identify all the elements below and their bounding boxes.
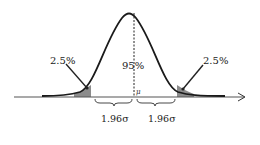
left-interval-label: 1.96σ	[101, 113, 129, 124]
left-tail-label: 2.5%	[50, 55, 75, 66]
left-tail-pointer	[66, 64, 87, 88]
right-tail-pointer	[183, 65, 203, 89]
right-interval-label: 1.96σ	[148, 113, 176, 124]
left-tail-pointer-head	[85, 86, 88, 89]
right-tail-pointer-head	[181, 87, 184, 90]
right-tail-label: 2.5%	[203, 55, 228, 66]
left-interval-brace	[95, 99, 132, 106]
center-percent-label: 95%	[122, 60, 144, 71]
right-interval-brace	[137, 99, 175, 106]
normal-distribution-diagram: 2.5% 2.5% 95% μ 1.96σ 1.96σ	[0, 0, 260, 145]
diagram-canvas: 2.5% 2.5% 95% μ 1.96σ 1.96σ	[0, 0, 260, 145]
mean-label: μ	[136, 88, 141, 96]
